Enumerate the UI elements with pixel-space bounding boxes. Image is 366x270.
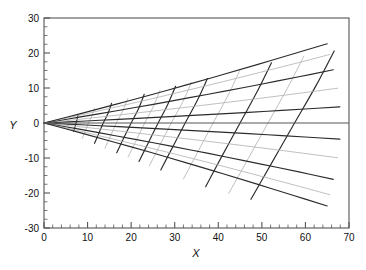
x-tick-label: 10 <box>82 232 94 243</box>
y-tick-label: 0 <box>33 118 39 129</box>
x-tick-label: 0 <box>41 232 47 243</box>
y-tick-label: 10 <box>28 83 40 94</box>
chart-figure: 010203040506070-30-20-100102030 X Y <box>0 0 366 270</box>
y-tick-label: -10 <box>25 153 40 164</box>
x-tick-label: 70 <box>343 232 355 243</box>
y-axis-label: Y <box>9 119 17 131</box>
x-tick-label: 20 <box>126 232 138 243</box>
x-tick-label: 50 <box>256 232 268 243</box>
x-tick-label: 40 <box>213 232 225 243</box>
x-tick-label: 60 <box>300 232 312 243</box>
y-tick-label: 30 <box>28 13 40 24</box>
x-tick-label: 30 <box>169 232 181 243</box>
y-tick-label: 20 <box>28 48 40 59</box>
x-axis-label: X <box>191 247 200 259</box>
trajectory-envelope-chart: 010203040506070-30-20-100102030 X Y <box>0 0 366 270</box>
chart-background <box>0 0 366 270</box>
y-tick-label: -30 <box>25 223 40 234</box>
y-tick-label: -20 <box>25 188 40 199</box>
